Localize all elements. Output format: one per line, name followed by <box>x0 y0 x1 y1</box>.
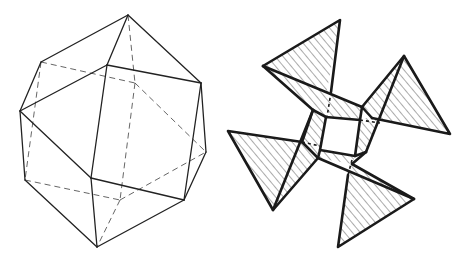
polyhedron-diagram <box>20 15 206 247</box>
polyhedron-hidden-edges <box>25 15 206 247</box>
pinwheel-outlines <box>228 20 450 247</box>
figure-svg <box>0 0 471 263</box>
pinwheel-hatched-regions <box>228 20 450 247</box>
figure-canvas <box>0 0 471 263</box>
pinwheel-diagram <box>228 20 450 247</box>
center-square <box>320 117 360 156</box>
polyhedron-visible-edges <box>20 15 206 247</box>
